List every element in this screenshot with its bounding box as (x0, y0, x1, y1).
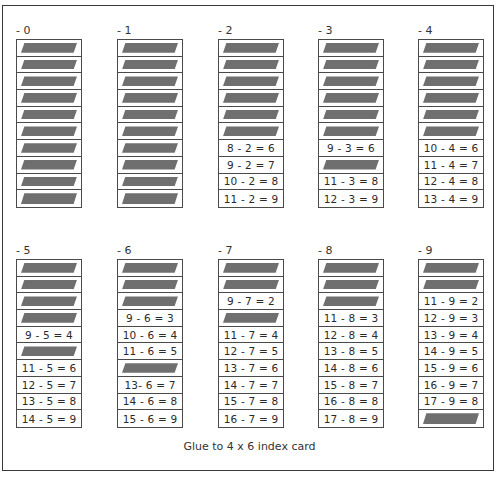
cover-bar-icon (223, 110, 279, 120)
fact-cell: 11 - 9 = 2 (419, 293, 483, 310)
fact-equation: 9 - 3 = 6 (327, 142, 375, 154)
cover-bar-icon (323, 93, 379, 103)
cover-bar-icon (122, 93, 178, 103)
fact-equation: 13 - 9 = 4 (424, 329, 479, 341)
covered-fact-cell (17, 174, 81, 191)
covered-fact-cell (118, 190, 182, 207)
fact-column: - 39 - 3 = 611 - 3 = 812 - 3 = 9 (318, 39, 384, 208)
covered-fact-cell (118, 140, 182, 157)
covered-fact-cell (17, 57, 81, 74)
covered-fact-cell (419, 410, 483, 427)
cover-bar-icon (122, 43, 178, 53)
fact-cell: 16 - 8 = 8 (319, 394, 383, 411)
fact-cell: 9 - 3 = 6 (319, 140, 383, 157)
fact-cell: 10 - 2 = 8 (219, 174, 283, 191)
fact-stack: 9 - 7 = 211 - 7 = 412 - 7 = 513 - 7 = 61… (218, 259, 284, 428)
cover-bar-icon (323, 296, 379, 306)
cover-bar-icon (223, 60, 279, 70)
covered-fact-cell (118, 90, 182, 107)
covered-fact-cell (118, 360, 182, 377)
fact-column: - 69 - 6 = 310 - 6 = 411 - 6 = 513- 6 = … (117, 259, 183, 428)
covered-fact-cell (419, 260, 483, 277)
fact-equation: 15 - 9 = 6 (424, 362, 479, 374)
covered-fact-cell (319, 157, 383, 174)
fact-cell: 15 - 9 = 6 (419, 360, 483, 377)
fact-equation: 12 - 8 = 4 (324, 329, 379, 341)
fact-equation: 16 - 7 = 9 (224, 413, 279, 425)
fact-cell: 10 - 4 = 6 (419, 140, 483, 157)
cover-bar-icon (323, 263, 379, 273)
covered-fact-cell (17, 343, 81, 360)
fact-column: - 28 - 2 = 69 - 2 = 710 - 2 = 811 - 2 = … (218, 39, 284, 208)
covered-fact-cell (17, 123, 81, 140)
covered-fact-cell (219, 123, 283, 140)
fact-cell: 9 - 2 = 7 (219, 157, 283, 174)
cover-bar-icon (21, 60, 77, 70)
cover-bar-icon (423, 126, 479, 136)
column-label: - 5 (16, 245, 30, 257)
fact-equation: 15 - 8 = 7 (324, 379, 379, 391)
fact-equation: 9 - 6 = 3 (126, 312, 174, 324)
fact-stack (16, 39, 82, 208)
cover-bar-icon (122, 296, 178, 306)
cover-bar-icon (21, 177, 77, 187)
covered-fact-cell (419, 57, 483, 74)
fact-stack: 8 - 2 = 69 - 2 = 710 - 2 = 811 - 2 = 9 (218, 39, 284, 208)
cover-bar-icon (223, 313, 279, 323)
cover-bar-icon (21, 263, 77, 273)
fact-cell: 16 - 7 = 9 (219, 410, 283, 427)
column-label: - 0 (16, 25, 30, 37)
fact-cell: 8 - 2 = 6 (219, 140, 283, 157)
cover-bar-icon (423, 263, 479, 273)
fact-cell: 14 - 7 = 7 (219, 377, 283, 394)
fact-column: - 79 - 7 = 211 - 7 = 412 - 7 = 513 - 7 =… (218, 259, 284, 428)
cover-bar-icon (122, 280, 178, 290)
cover-bar-icon (223, 76, 279, 86)
fact-equation: 16 - 9 = 7 (424, 379, 479, 391)
fact-cell: 9 - 5 = 4 (17, 327, 81, 344)
fact-equation: 13 - 7 = 6 (224, 362, 279, 374)
covered-fact-cell (319, 260, 383, 277)
fact-equation: 13 - 4 = 9 (424, 193, 479, 205)
cover-bar-icon (423, 110, 479, 120)
covered-fact-cell (17, 293, 81, 310)
cover-bar-icon (223, 263, 279, 273)
fact-cell: 13 - 7 = 6 (219, 360, 283, 377)
footer-instruction: Glue to 4 x 6 index card (0, 440, 499, 453)
cover-bar-icon (423, 76, 479, 86)
covered-fact-cell (118, 174, 182, 191)
fact-equation: 14 - 6 = 8 (123, 395, 178, 407)
cover-bar-icon (223, 126, 279, 136)
fact-equation: 12 - 5 = 7 (22, 379, 77, 391)
fact-cell: 11 - 4 = 7 (419, 157, 483, 174)
cover-bar-icon (323, 280, 379, 290)
fact-equation: 14 - 7 = 7 (224, 379, 279, 391)
covered-fact-cell (319, 90, 383, 107)
covered-fact-cell (219, 73, 283, 90)
covered-fact-cell (118, 293, 182, 310)
covered-fact-cell (319, 57, 383, 74)
fact-stack: 11 - 8 = 312 - 8 = 413 - 8 = 514 - 8 = 6… (318, 259, 384, 428)
covered-fact-cell (319, 40, 383, 57)
cover-bar-icon (21, 160, 77, 170)
fact-equation: 14 - 5 = 9 (22, 413, 77, 425)
cover-bar-icon (122, 126, 178, 136)
covered-fact-cell (419, 277, 483, 294)
fact-equation: 11 - 3 = 8 (324, 175, 379, 187)
fact-stack: 9 - 3 = 611 - 3 = 812 - 3 = 9 (318, 39, 384, 208)
covered-fact-cell (17, 40, 81, 57)
fact-cell: 11 - 3 = 8 (319, 174, 383, 191)
fact-equation: 10 - 6 = 4 (123, 329, 178, 341)
fact-equation: 12 - 9 = 3 (424, 312, 479, 324)
fact-equation: 11 - 5 = 6 (22, 362, 77, 374)
fact-column: - 811 - 8 = 312 - 8 = 413 - 8 = 514 - 8 … (318, 259, 384, 428)
cover-bar-icon (223, 280, 279, 290)
fact-cell: 13 - 4 = 9 (419, 190, 483, 207)
covered-fact-cell (118, 107, 182, 124)
cover-bar-icon (21, 110, 77, 120)
fact-cell: 9 - 7 = 2 (219, 293, 283, 310)
fact-equation: 12 - 4 = 8 (424, 175, 479, 187)
fact-equation: 9 - 7 = 2 (227, 295, 275, 307)
covered-fact-cell (419, 40, 483, 57)
cover-bar-icon (323, 60, 379, 70)
